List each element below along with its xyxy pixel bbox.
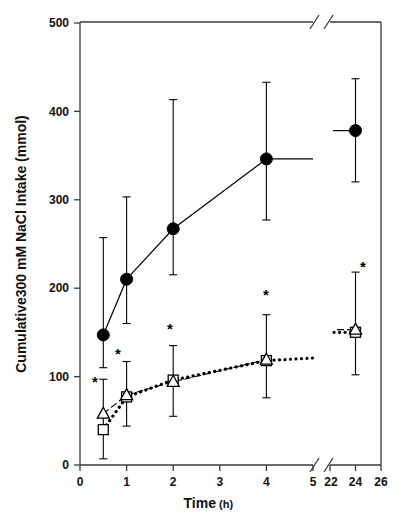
errorbar-circle-2h: [169, 100, 177, 275]
x-axis-title: Time (h): [184, 495, 234, 511]
y-axis-ticks: [74, 23, 80, 465]
markers-filled-circle: [97, 125, 361, 341]
x-axis-ticks: [80, 465, 381, 471]
star-2h: *: [167, 320, 173, 337]
y-tick-label-300: 300: [49, 193, 69, 207]
x-tick-label-4: 4: [263, 475, 270, 489]
star-24h: *: [360, 258, 366, 275]
series-open-triangle: [103, 330, 355, 414]
x-tick-label-24: 24: [349, 475, 363, 489]
star-4h: *: [263, 286, 269, 303]
x-tick-label-2: 2: [170, 475, 177, 489]
errorbar-circle-1h: [123, 197, 131, 324]
marker-square: [98, 425, 108, 435]
axis-break-top: [310, 15, 333, 29]
y-axis-title: Cumulative300 mM NaCl Intake (mmol): [13, 115, 29, 373]
y-tick-label-100: 100: [49, 370, 69, 384]
x-tick-label-26: 26: [374, 475, 388, 489]
marker-circle: [97, 329, 109, 341]
x-tick-label-3: 3: [216, 475, 223, 489]
x-tick-label-1: 1: [123, 475, 130, 489]
y-tick-label-400: 400: [49, 105, 69, 119]
significance-stars: * * * * *: [92, 258, 366, 390]
marker-circle: [167, 223, 179, 235]
y-axis-tick-labels: 0 100 200 300 400 500: [49, 16, 69, 472]
errorbar-circle-0.5h: [99, 238, 107, 368]
x-tick-label-22: 22: [324, 475, 338, 489]
x-tick-label-5: 5: [310, 475, 317, 489]
markers-open-triangle: [97, 323, 361, 418]
y-tick-label-200: 200: [49, 281, 69, 295]
errorbar-low-0.5h: [99, 379, 107, 459]
marker-circle: [121, 273, 133, 285]
error-bars: [99, 79, 359, 459]
star-1h: *: [115, 345, 121, 362]
errorbar-circle-4h: [262, 82, 270, 220]
y-tick-label-0: 0: [62, 458, 69, 472]
chart-figure: 0 100 200 300 400 500 0 1 2 3 4 5 22: [0, 0, 410, 519]
x-axis-title-units: (h): [219, 498, 233, 510]
x-axis-title-main: Time: [184, 495, 217, 511]
marker-circle: [350, 125, 362, 137]
marker-circle: [260, 153, 272, 165]
star-0.5h: *: [92, 373, 98, 390]
x-tick-label-0: 0: [77, 475, 84, 489]
series-filled-circle: [103, 131, 355, 335]
x-axis-tick-labels: 0 1 2 3 4 5 22 24 26: [77, 475, 388, 489]
marker-triangle: [97, 407, 109, 418]
y-tick-label-500: 500: [49, 16, 69, 30]
markers-open-square: [98, 327, 360, 434]
chart-svg: 0 100 200 300 400 500 0 1 2 3 4 5 22: [0, 0, 410, 519]
series-open-square: [103, 332, 355, 429]
